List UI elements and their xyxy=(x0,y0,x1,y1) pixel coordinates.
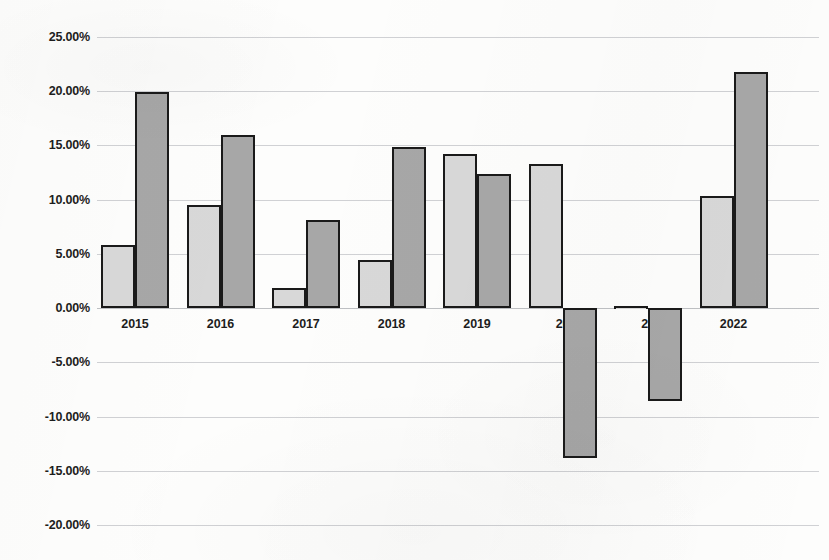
gridline-neg5 xyxy=(97,362,819,363)
y-tick-label: 0.00% xyxy=(8,301,90,315)
bar-2016-series-2-dark xyxy=(221,135,255,309)
y-tick-label: 15.00% xyxy=(8,138,90,152)
chart-screenshot: 25.00%20.00%15.00%10.00%5.00%0.00%-5.00%… xyxy=(0,0,829,560)
y-tick-label: -15.00% xyxy=(8,464,90,478)
bar-2020-series-1-light xyxy=(529,164,563,308)
bar-2017-series-2-dark xyxy=(306,220,340,308)
bar-2020-series-2-dark xyxy=(563,308,597,458)
bar-2021-series-2-dark xyxy=(648,308,682,401)
bar-2022-series-1-light xyxy=(700,196,734,308)
gridline-neg20 xyxy=(97,525,819,526)
gridline-neg15 xyxy=(97,471,819,472)
y-tick-label: 25.00% xyxy=(8,30,90,44)
y-tick-label: 10.00% xyxy=(8,193,90,207)
gridline-25 xyxy=(97,37,819,38)
bar-2019-series-1-light xyxy=(443,154,477,308)
x-tick-label-2019: 2019 xyxy=(429,317,525,331)
y-tick-label: 5.00% xyxy=(8,247,90,261)
bar-2021-series-1-light xyxy=(614,306,648,309)
bar-2019-series-2-dark xyxy=(477,174,511,308)
gridline-15 xyxy=(97,145,819,146)
gridline-neg10 xyxy=(97,417,819,418)
y-tick-label: 20.00% xyxy=(8,84,90,98)
bar-2018-series-1-light xyxy=(358,260,392,308)
y-tick-label: -10.00% xyxy=(8,410,90,424)
bar-2022-series-2-dark xyxy=(734,72,768,308)
gridline-0 xyxy=(97,308,819,309)
bar-chart-plot-area: 25.00%20.00%15.00%10.00%5.00%0.00%-5.00%… xyxy=(0,0,829,560)
bar-2015-series-2-dark xyxy=(135,92,169,308)
x-tick-label-2017: 2017 xyxy=(258,317,354,331)
bar-2018-series-2-dark xyxy=(392,147,426,309)
y-tick-label: -5.00% xyxy=(8,355,90,369)
x-tick-label-2018: 2018 xyxy=(344,317,440,331)
y-tick-label: -20.00% xyxy=(8,518,90,532)
x-tick-label-2022: 2022 xyxy=(686,317,782,331)
gridline-20 xyxy=(97,91,819,92)
x-tick-label-2015: 2015 xyxy=(87,317,183,331)
bar-2016-series-1-light xyxy=(187,205,221,308)
bar-2017-series-1-light xyxy=(272,288,306,309)
x-tick-label-2016: 2016 xyxy=(173,317,269,331)
bar-2015-series-1-light xyxy=(101,245,135,308)
